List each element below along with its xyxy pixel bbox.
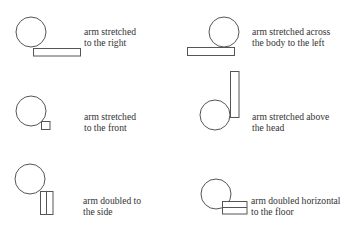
figure-arm-doubled-side: [15, 164, 53, 215]
arm-square: [42, 122, 51, 130]
caption-line: arm doubled horizontal: [251, 196, 341, 207]
arm-rectangle: [188, 48, 235, 56]
caption-arm-stretched-front: arm stretched to the front: [84, 112, 136, 133]
head-circle: [209, 17, 239, 47]
caption-arm-doubled-horizontal-floor: arm doubled horizontal to the floor: [251, 196, 341, 217]
caption-line: arm stretched above: [252, 112, 329, 123]
caption-line: the head: [252, 123, 329, 134]
caption-arm-stretched-above-head: arm stretched above the head: [252, 112, 329, 133]
arm-rectangle: [231, 72, 240, 118]
figure-arm-stretched-above-head: [200, 72, 239, 131]
caption-line: to the right: [84, 38, 136, 49]
caption-arm-stretched-across-left: arm stretched across the body to the lef…: [252, 27, 330, 48]
caption-line: arm doubled to: [83, 196, 141, 207]
caption-line: arm stretched: [84, 112, 136, 123]
caption-line: the side: [83, 207, 141, 218]
caption-line: arm stretched across: [252, 27, 330, 38]
caption-line: the body to the left: [252, 38, 330, 49]
arm-rectangle: [34, 49, 81, 57]
caption-arm-doubled-side: arm doubled to the side: [83, 196, 141, 217]
figure-arm-stretched-across-left: [188, 17, 240, 56]
head-circle: [15, 164, 45, 194]
figure-arm-stretched-right: [16, 17, 81, 56]
caption-line: to the front: [84, 123, 136, 134]
head-circle: [16, 17, 46, 47]
figure-arm-doubled-horizontal-floor: [201, 179, 247, 214]
caption-line: arm stretched: [84, 27, 136, 38]
head-circle: [200, 100, 230, 130]
figure-arm-stretched-front: [16, 96, 50, 130]
caption-line: to the floor: [251, 207, 341, 218]
caption-arm-stretched-right: arm stretched to the right: [84, 27, 136, 48]
